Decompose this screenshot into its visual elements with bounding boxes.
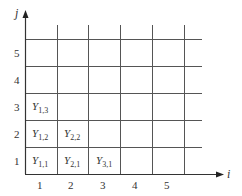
- horizontal-grid-lines: [25, 40, 202, 148]
- x-axis-arrow-icon: [216, 172, 224, 178]
- x-axis-label: i: [227, 167, 230, 182]
- y-tick-3: 3: [14, 102, 20, 113]
- y-axis-label: j: [15, 6, 18, 21]
- x-tick-5: 5: [164, 180, 170, 191]
- x-tick-3: 3: [100, 180, 106, 191]
- vertical-grid-lines: [58, 25, 185, 174]
- x-tick-2: 2: [68, 180, 74, 191]
- y-axis-arrow-icon: [23, 10, 29, 18]
- y-tick-4: 4: [14, 75, 20, 86]
- x-tick-4: 4: [132, 180, 138, 191]
- cell-y-2-1: Y2,1: [64, 154, 80, 169]
- cell-y-3-1: Y3,1: [96, 154, 112, 169]
- y-tick-1: 1: [14, 156, 20, 167]
- x-tick-1: 1: [37, 180, 43, 191]
- cell-y-1-1: Y1,1: [32, 154, 48, 169]
- y-tick-2: 2: [14, 129, 20, 140]
- axes: [25, 15, 218, 175]
- cell-y-1-3: Y1,3: [32, 100, 48, 115]
- cell-y-1-2: Y1,2: [32, 127, 48, 142]
- y-tick-5: 5: [14, 48, 20, 59]
- cell-y-2-2: Y2,2: [64, 127, 80, 142]
